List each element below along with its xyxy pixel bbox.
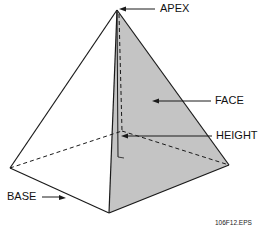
pyramid-figure [0, 0, 264, 233]
base-label: BASE [7, 190, 36, 202]
figure-caption: 106F12.EPS [215, 219, 252, 226]
apex-label: APEX [160, 2, 189, 14]
face-label: FACE [215, 94, 244, 106]
height-label: HEIGHT [216, 129, 258, 141]
face-shaded [109, 10, 229, 213]
pyramid-diagram: APEX FACE HEIGHT BASE 106F12.EPS [0, 0, 264, 233]
base-arrow [42, 195, 66, 200]
edge-apex-left [10, 10, 117, 168]
hidden-base-edge-left [10, 131, 122, 168]
apex-arrow [119, 7, 155, 12]
